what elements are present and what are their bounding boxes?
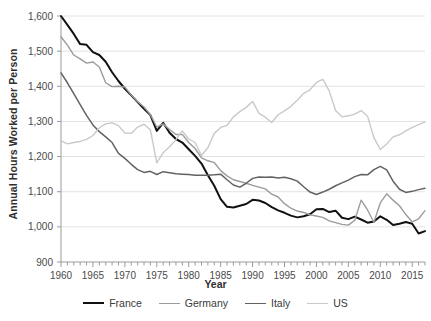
- legend-item-us[interactable]: US: [307, 297, 348, 309]
- legend-swatch-france: [83, 302, 104, 304]
- legend-swatch-us: [307, 303, 328, 304]
- y-axis-tick-label: 1,100: [28, 186, 53, 197]
- y-axis-tick-label: 900: [36, 257, 53, 268]
- x-axis-title-text: Year: [204, 278, 226, 290]
- legend-swatch-germany: [159, 303, 180, 304]
- series-line-germany: [61, 37, 425, 225]
- plot-area: 9001,0001,1001,2001,3001,4001,5001,60019…: [0, 0, 431, 280]
- legend-swatch-italy: [245, 303, 266, 304]
- y-axis-tick-label: 1,400: [28, 81, 53, 92]
- y-axis-tick-label: 1,300: [28, 116, 53, 127]
- y-axis-tick-label: 1,600: [28, 11, 53, 22]
- y-axis-tick-label: 1,200: [28, 151, 53, 162]
- legend-label: France: [109, 297, 142, 309]
- y-axis-tick-label: 1,000: [28, 221, 53, 232]
- series-line-italy: [61, 73, 425, 195]
- line-chart: Annual Hours Worked per Person 9001,0001…: [0, 0, 431, 321]
- legend-item-germany[interactable]: Germany: [159, 297, 228, 309]
- legend-label: Italy: [271, 297, 290, 309]
- legend-label: US: [333, 297, 348, 309]
- chart-legend: FranceGermanyItalyUS: [0, 297, 431, 309]
- legend-label: Germany: [185, 297, 228, 309]
- y-axis-tick-label: 1,500: [28, 46, 53, 57]
- x-axis-title: Year: [0, 278, 431, 290]
- legend-item-france[interactable]: France: [83, 297, 142, 309]
- legend-item-italy[interactable]: Italy: [245, 297, 290, 309]
